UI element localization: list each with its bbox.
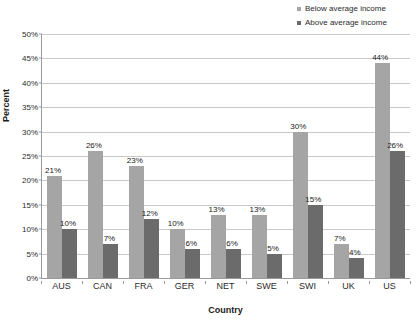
x-axis-label-swe: SWE xyxy=(246,281,287,292)
bar-value-label: 15% xyxy=(305,195,321,204)
chart-legend: Below average income Above average incom… xyxy=(297,3,387,28)
bar-group: 10%6% xyxy=(165,34,206,278)
y-axis-tick-label: 0% xyxy=(26,274,38,283)
bar-swe-below-average: 13% xyxy=(252,215,267,278)
x-axis-label-net: NET xyxy=(205,281,246,292)
bar-group: 30%15% xyxy=(287,34,328,278)
bar-value-label: 13% xyxy=(209,205,225,214)
x-axis-tick-mark xyxy=(287,281,288,284)
bar-fra-above-average: 12% xyxy=(144,219,159,278)
bar-group: 21%10% xyxy=(42,34,83,278)
bar-value-label: 13% xyxy=(249,205,265,214)
bar-value-label: 26% xyxy=(86,141,102,150)
legend-label-above-average: Above average income xyxy=(305,18,387,27)
x-axis-label-can: CAN xyxy=(82,281,123,292)
chart-plot-area: 0%5%10%15%20%25%30%35%40%45%50% 21%10%26… xyxy=(41,34,410,279)
bar-value-label: 7% xyxy=(104,234,116,243)
bar-net-below-average: 13% xyxy=(211,215,226,278)
bar-can-below-average: 26% xyxy=(88,151,103,278)
bar-groups: 21%10%26%7%23%12%10%6%13%6%13%5%30%15%7%… xyxy=(42,34,410,278)
y-axis-tick-label: 35% xyxy=(22,103,38,112)
bar-swi-below-average: 30% xyxy=(293,132,308,278)
y-axis-tick-label: 30% xyxy=(22,127,38,136)
bar-group: 44%26% xyxy=(369,34,410,278)
bar-value-label: 6% xyxy=(185,239,197,248)
bar-value-label: 7% xyxy=(334,234,346,243)
x-axis-tick-mark xyxy=(369,281,370,284)
bar-value-label: 12% xyxy=(142,209,158,218)
bar-group: 23%12% xyxy=(124,34,165,278)
bar-ger-above-average: 6% xyxy=(185,249,200,278)
y-axis-tick-label: 15% xyxy=(22,200,38,209)
y-axis-tick-label: 50% xyxy=(22,30,38,39)
legend-item-below-average: Below average income xyxy=(297,3,387,14)
x-axis-tick-mark xyxy=(205,281,206,284)
y-axis-title: Percent xyxy=(1,89,11,122)
x-axis-label-fra: FRA xyxy=(123,281,164,292)
bar-group: 13%6% xyxy=(206,34,247,278)
bar-net-above-average: 6% xyxy=(226,249,241,278)
x-axis-label-us: US xyxy=(369,281,410,292)
x-axis-tick-mark xyxy=(410,281,411,284)
bar-us-above-average: 26% xyxy=(390,151,405,278)
x-axis-label-swi: SWI xyxy=(287,281,328,292)
bar-can-above-average: 7% xyxy=(103,244,118,278)
y-axis-tick-label: 45% xyxy=(22,54,38,63)
x-axis-tick-mark xyxy=(328,281,329,284)
bar-ger-below-average: 10% xyxy=(170,229,185,278)
legend-swatch-below-average xyxy=(297,7,301,11)
y-axis-tick-label: 40% xyxy=(22,78,38,87)
bar-value-label: 30% xyxy=(290,122,306,131)
legend-swatch-above-average xyxy=(297,21,301,25)
bar-value-label: 5% xyxy=(267,244,279,253)
x-axis-label-ger: GER xyxy=(164,281,205,292)
x-axis-tick-mark xyxy=(41,281,42,284)
x-axis-label-uk: UK xyxy=(328,281,369,292)
x-axis-labels: AUSCANFRAGERNETSWESWIUKUS xyxy=(41,281,410,292)
y-axis-tick-label: 25% xyxy=(22,152,38,161)
bar-fra-below-average: 23% xyxy=(129,166,144,278)
x-axis-title: Country xyxy=(41,305,410,315)
plot-frame: 0%5%10%15%20%25%30%35%40%45%50% 21%10%26… xyxy=(41,34,410,279)
bar-us-below-average: 44% xyxy=(375,63,390,278)
y-axis-tick-label: 20% xyxy=(22,176,38,185)
bar-value-label: 21% xyxy=(45,166,61,175)
y-axis-tick-label: 5% xyxy=(26,249,38,258)
x-axis-tick-mark xyxy=(246,281,247,284)
x-axis-tick-mark xyxy=(164,281,165,284)
bar-uk-above-average: 4% xyxy=(349,258,364,278)
bar-group: 7%4% xyxy=(328,34,369,278)
bar-value-label: 10% xyxy=(60,219,76,228)
bar-value-label: 23% xyxy=(127,156,143,165)
bar-aus-above-average: 10% xyxy=(62,229,77,278)
x-axis-tick-mark xyxy=(123,281,124,284)
legend-label-below-average: Below average income xyxy=(305,4,386,13)
bar-group: 13%5% xyxy=(246,34,287,278)
bar-value-label: 6% xyxy=(226,239,238,248)
x-axis-label-aus: AUS xyxy=(41,281,82,292)
bar-value-label: 10% xyxy=(168,219,184,228)
bar-value-label: 26% xyxy=(387,141,403,150)
bar-uk-below-average: 7% xyxy=(334,244,349,278)
x-axis-tick-mark xyxy=(82,281,83,284)
bar-swi-above-average: 15% xyxy=(308,205,323,278)
bar-value-label: 44% xyxy=(372,53,388,62)
legend-item-above-average: Above average income xyxy=(297,17,387,28)
y-axis-tick-label: 10% xyxy=(22,225,38,234)
bar-swe-above-average: 5% xyxy=(267,254,282,278)
bar-value-label: 4% xyxy=(349,248,361,257)
bar-group: 26%7% xyxy=(83,34,124,278)
